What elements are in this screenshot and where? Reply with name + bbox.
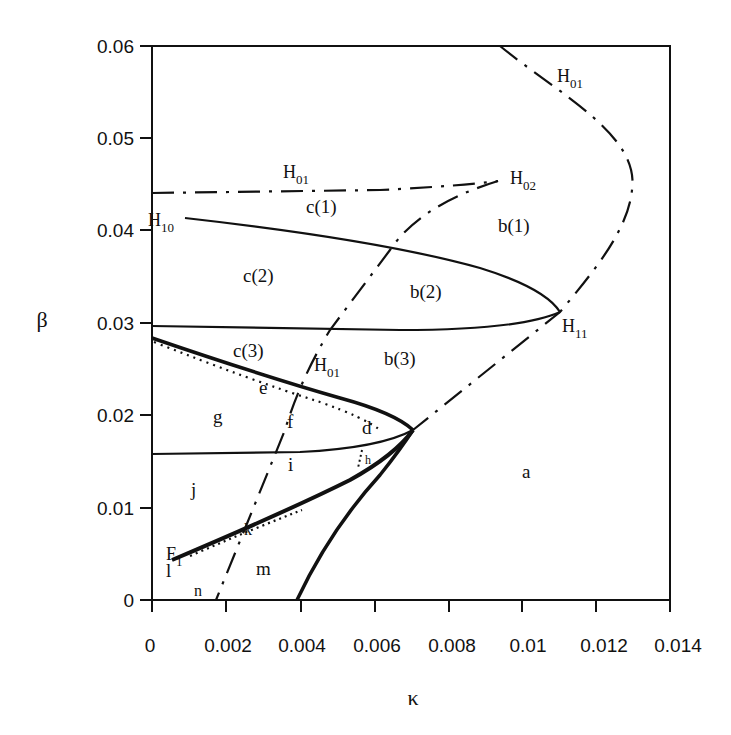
dotted-curve-h	[358, 450, 362, 468]
region-b1: b(1)	[498, 215, 530, 237]
region-j: j	[190, 479, 196, 500]
region-n: n	[194, 582, 202, 599]
y-tick-0.04: 0.04	[97, 220, 134, 241]
y-tick-0.06: 0.06	[97, 36, 134, 57]
y-axis-ticks	[140, 46, 152, 600]
x-axis-ticks	[152, 600, 670, 612]
x-tick-0: 0	[145, 635, 156, 656]
label-H01-middle: H01	[314, 355, 340, 380]
y-tick-0.02: 0.02	[97, 405, 134, 426]
thick-curve-bottom	[297, 430, 413, 600]
region-m: m	[256, 558, 271, 579]
plot-frame	[152, 46, 670, 600]
region-h: h	[365, 453, 371, 467]
region-d: d	[362, 417, 372, 438]
x-tick-0.004: 0.004	[278, 635, 326, 656]
x-tick-0.002: 0.002	[204, 635, 252, 656]
x-tick-labels: 0 0.002 0.004 0.006 0.008 0.01 0.012 0.0…	[145, 635, 702, 656]
label-H01-top-right: H01	[557, 66, 583, 91]
thick-curve-upper	[152, 338, 413, 430]
solid-curve-loop-bottom	[152, 312, 560, 330]
x-tick-0.006: 0.006	[353, 635, 401, 656]
bifurcation-diagram: 0 0.01 0.02 0.03 0.04 0.05 0.06 0 0.002 …	[0, 0, 731, 735]
x-tick-0.008: 0.008	[428, 635, 476, 656]
label-H02: H02	[510, 168, 536, 193]
label-H11: H11	[562, 316, 588, 341]
region-i: i	[288, 454, 293, 475]
region-l: l	[166, 560, 171, 581]
x-axis-label: κ	[407, 685, 418, 710]
y-tick-0.05: 0.05	[97, 128, 134, 149]
thick-curve-lower	[172, 430, 413, 560]
region-c2: c(2)	[243, 265, 274, 287]
x-tick-0.014: 0.014	[654, 635, 702, 656]
x-tick-0.012: 0.012	[580, 635, 628, 656]
region-b2: b(2)	[410, 281, 442, 303]
region-a: a	[522, 461, 531, 482]
region-c3: c(3)	[233, 340, 264, 362]
region-b3: b(3)	[384, 348, 416, 370]
y-tick-0.01: 0.01	[97, 498, 134, 519]
y-tick-labels: 0 0.01 0.02 0.03 0.04 0.05 0.06	[97, 36, 134, 611]
region-c1: c(1)	[306, 196, 337, 218]
region-e: e	[259, 377, 267, 398]
y-tick-0.03: 0.03	[97, 313, 134, 334]
y-tick-0: 0	[123, 590, 134, 611]
region-g: g	[213, 406, 223, 427]
label-H01-horizontal: H01	[283, 162, 309, 187]
region-k: k	[244, 521, 252, 538]
hopf-curve-horizontal	[152, 181, 498, 193]
hopf-curve-outer	[413, 46, 633, 430]
x-tick-0.01: 0.01	[510, 635, 547, 656]
y-axis-label: β	[36, 307, 47, 332]
region-f: f	[287, 411, 294, 432]
